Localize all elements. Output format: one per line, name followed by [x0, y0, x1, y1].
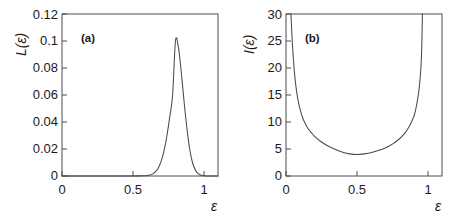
panel-a-plot: L(ε) 0 0.02 0.04 0.06 0.08 0.1 0.12 0 0.… — [0, 0, 234, 216]
panel-b-xtick-1: 0.5 — [348, 182, 366, 197]
panel-b-ytick-6: 30 — [268, 7, 282, 22]
panel-a-ytick-6: 0.12 — [33, 7, 58, 22]
panel-a-ylabel: L(ε) — [13, 33, 29, 56]
panel-b-ytick-1: 5 — [275, 141, 282, 156]
panel-a-ytick-5: 0.1 — [40, 33, 58, 48]
panel-a-xtick-2: 1 — [200, 182, 207, 197]
panel-b-ytick-0: 0 — [275, 168, 282, 183]
panel-b-ytick-5: 25 — [268, 33, 282, 48]
panel-b-ytick-4: 20 — [268, 60, 282, 75]
panel-b-xlabel: ε — [435, 198, 442, 214]
panel-b-ylabel: I(ε) — [241, 35, 257, 54]
panel-a-ytick-1: 0.02 — [33, 141, 58, 156]
panel-b-ytick-2: 10 — [268, 114, 282, 129]
panel-a-ytick-2: 0.04 — [33, 114, 58, 129]
panel-b-xtick-2: 1 — [424, 182, 431, 197]
panel-b: I(ε) 0 5 10 15 20 25 30 0 0.5 1 — [234, 0, 468, 216]
panel-b-tag: (b) — [305, 32, 320, 44]
panel-a-ytick-4: 0.08 — [33, 60, 58, 75]
panel-a-xtick-1: 0.5 — [124, 182, 142, 197]
panel-b-plot: I(ε) 0 5 10 15 20 25 30 0 0.5 1 — [234, 0, 468, 216]
panel-a-xtick-0: 0 — [58, 182, 65, 197]
panel-b-xtick-0: 0 — [282, 182, 289, 197]
panel-a-ytick-0: 0 — [51, 168, 58, 183]
panel-a-ytick-3: 0.06 — [33, 87, 58, 102]
panel-a-curve — [62, 38, 218, 176]
panel-b-ytick-3: 15 — [268, 87, 282, 102]
panel-a-tag: (a) — [81, 32, 95, 44]
panel-a-xlabel: ε — [211, 198, 218, 214]
figure-container: L(ε) 0 0.02 0.04 0.06 0.08 0.1 0.12 0 0.… — [0, 0, 468, 216]
panel-a: L(ε) 0 0.02 0.04 0.06 0.08 0.1 0.12 0 0.… — [0, 0, 234, 216]
